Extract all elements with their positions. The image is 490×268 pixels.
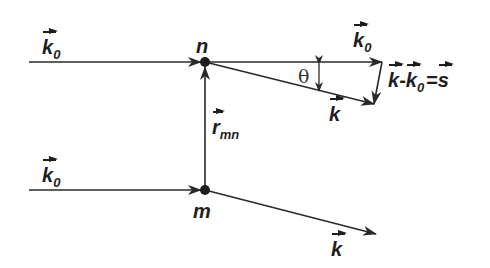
subscript: mn — [220, 127, 240, 142]
node-label-n: n — [196, 35, 208, 58]
label-incident-k0-bottom: k0 — [42, 165, 60, 185]
vector-s: s — [438, 70, 449, 90]
equation-s: k-k0=s — [388, 70, 449, 90]
scattered-k-vector-bottom — [205, 190, 376, 234]
label-scattered-k-top: k — [329, 104, 340, 124]
vector-r: r — [212, 117, 220, 137]
vector-k: k — [331, 239, 342, 259]
label-incident-k0-top: k0 — [42, 37, 60, 57]
subscript: 0 — [53, 175, 60, 190]
vector-k: k — [42, 165, 53, 185]
label-scattered-k-bottom: k — [331, 239, 342, 259]
subscript: 0 — [417, 80, 424, 95]
node-m — [200, 185, 210, 195]
vector-k: k — [42, 37, 53, 57]
angle-theta-label: θ — [298, 65, 309, 87]
scattered-k-vector-top — [205, 62, 374, 104]
label-transmitted-k0: k0 — [353, 30, 371, 50]
subscript: 0 — [364, 40, 371, 55]
vector-k: k — [353, 30, 364, 50]
vector-k: k — [388, 70, 399, 90]
node-label-m: m — [193, 200, 211, 223]
label-r-mn: rmn — [212, 117, 239, 137]
subscript: 0 — [53, 47, 60, 62]
scattering-vector-s — [374, 62, 382, 104]
vector-k0: k — [406, 70, 417, 90]
vector-k: k — [329, 104, 340, 124]
equals-sign: = — [426, 69, 438, 91]
node-n — [200, 57, 210, 67]
diagram-lines — [0, 0, 490, 268]
scattering-diagram: k0 k0 n m rmn k0 θ k k k-k0=s — [0, 0, 490, 268]
minus-sign: - — [399, 69, 406, 91]
